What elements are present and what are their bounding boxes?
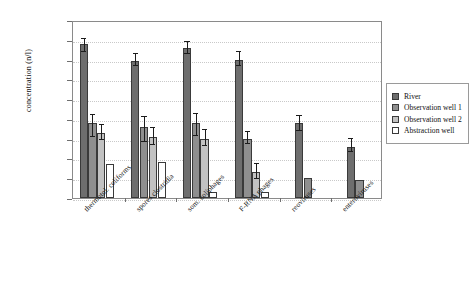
error-bar-cap bbox=[193, 113, 198, 114]
bar[interactable] bbox=[243, 139, 251, 198]
error-bar-cap bbox=[202, 129, 207, 130]
error-bar-cap bbox=[141, 116, 146, 117]
legend-item[interactable]: River bbox=[392, 92, 462, 101]
error-bar-cap bbox=[150, 127, 155, 128]
category-tick bbox=[176, 198, 177, 202]
bar-group bbox=[228, 22, 280, 198]
error-bar-cap bbox=[90, 114, 95, 115]
legend-swatch-icon bbox=[392, 127, 399, 134]
error-bar bbox=[205, 130, 206, 145]
bar-group bbox=[280, 22, 332, 198]
error-bar-cap bbox=[184, 41, 189, 42]
category-tick bbox=[280, 198, 281, 202]
legend-label: Observation well 2 bbox=[404, 115, 462, 124]
error-bar-cap bbox=[202, 145, 207, 146]
error-bar-cap bbox=[90, 136, 95, 137]
error-bar bbox=[196, 114, 197, 136]
legend-swatch-icon bbox=[392, 93, 399, 100]
category-tick bbox=[228, 198, 229, 202]
gridline bbox=[73, 200, 381, 201]
error-bar-cap bbox=[348, 151, 353, 152]
error-bar-cap bbox=[184, 53, 189, 54]
y-axis-title: concentration (n/l) bbox=[24, 6, 33, 156]
error-bar-cap bbox=[236, 51, 241, 52]
bar-group bbox=[176, 22, 228, 198]
error-bar-cap bbox=[99, 124, 104, 125]
legend-item[interactable]: Abstraction well bbox=[392, 126, 462, 135]
legend-item[interactable]: Observation well 1 bbox=[392, 103, 462, 112]
error-bar-cap bbox=[81, 38, 86, 39]
category-tick bbox=[125, 198, 126, 202]
bar[interactable] bbox=[183, 48, 191, 198]
error-bar bbox=[256, 164, 257, 179]
error-bar-cap bbox=[150, 144, 155, 145]
error-bar-cap bbox=[133, 65, 138, 66]
error-bar-cap bbox=[141, 141, 146, 142]
error-bar-cap bbox=[193, 135, 198, 136]
error-bar bbox=[153, 128, 154, 145]
error-bar-cap bbox=[133, 53, 138, 54]
bar[interactable] bbox=[235, 60, 243, 198]
y-axis-tick-mark bbox=[67, 199, 72, 200]
bar-group bbox=[331, 22, 383, 198]
legend-swatch-icon bbox=[392, 116, 399, 123]
error-bar bbox=[92, 115, 93, 137]
chart-figure: concentration (n/l) 10000001000001000010… bbox=[0, 0, 476, 294]
bar[interactable] bbox=[131, 61, 139, 198]
error-bar bbox=[101, 125, 102, 140]
error-bar bbox=[239, 52, 240, 66]
error-bar bbox=[299, 116, 300, 131]
error-bar-cap bbox=[245, 131, 250, 132]
bar[interactable] bbox=[80, 44, 88, 198]
legend-label: River bbox=[404, 92, 421, 101]
error-bar-cap bbox=[99, 139, 104, 140]
error-bar-cap bbox=[236, 65, 241, 66]
error-bar-cap bbox=[81, 51, 86, 52]
category-tick bbox=[331, 198, 332, 202]
error-bar-cap bbox=[296, 115, 301, 116]
chart-legend: RiverObservation well 1Observation well … bbox=[386, 83, 469, 144]
error-bar-cap bbox=[296, 130, 301, 131]
error-bar-cap bbox=[245, 143, 250, 144]
error-bar bbox=[144, 117, 145, 142]
error-bar-cap bbox=[254, 178, 259, 179]
legend-label: Abstraction well bbox=[404, 126, 454, 135]
legend-item[interactable]: Observation well 2 bbox=[392, 115, 462, 124]
bar[interactable] bbox=[347, 147, 355, 198]
bar[interactable] bbox=[295, 123, 303, 198]
legend-label: Observation well 1 bbox=[404, 103, 462, 112]
legend-swatch-icon bbox=[392, 104, 399, 111]
error-bar-cap bbox=[348, 138, 353, 139]
error-bar-cap bbox=[254, 163, 259, 164]
